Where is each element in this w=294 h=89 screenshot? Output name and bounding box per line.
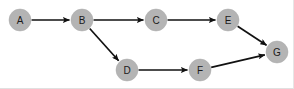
node-label-a: A <box>17 15 24 26</box>
graph-svg: ABCDEFG <box>0 0 294 89</box>
node-g[interactable]: G <box>266 41 288 63</box>
node-f[interactable]: F <box>189 59 211 81</box>
node-label-e: E <box>225 15 232 26</box>
node-label-d: D <box>123 65 130 76</box>
node-b[interactable]: B <box>71 9 93 31</box>
node-e[interactable]: E <box>217 9 239 31</box>
node-label-f: F <box>197 65 203 76</box>
diagram-canvas: ABCDEFG <box>0 0 294 89</box>
node-label-g: G <box>273 47 281 58</box>
node-label-c: C <box>152 15 159 26</box>
node-a[interactable]: A <box>9 9 31 31</box>
node-label-b: B <box>79 15 86 26</box>
node-d[interactable]: D <box>116 59 138 81</box>
edge-e-to-g <box>238 26 267 45</box>
edge-b-to-d <box>90 29 119 61</box>
node-c[interactable]: C <box>145 9 167 31</box>
edge-f-to-g <box>211 55 265 68</box>
